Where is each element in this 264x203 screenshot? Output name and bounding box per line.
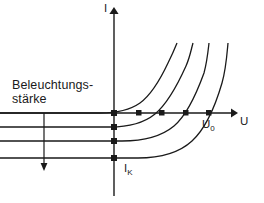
illumination-label-line2: stärke [12, 92, 93, 106]
y-axis-label: I [104, 2, 107, 15]
marker-point [136, 110, 142, 116]
marker-point [183, 110, 189, 116]
marker-point [159, 110, 165, 116]
x-axis-label: U [240, 115, 248, 128]
u-zero-label: U0 [202, 118, 215, 133]
u-zero-label-subscript: 0 [210, 124, 214, 133]
i-k-label: IK [124, 162, 133, 177]
marker-point [111, 155, 117, 161]
i-k-label-subscript: K [127, 168, 132, 177]
direction-arrow-head [41, 163, 48, 171]
photodiode-characteristic-figure: Beleuchtungs- stärke I U U0 IK [0, 0, 264, 203]
x-axis-arrowhead [231, 108, 238, 117]
marker-point [111, 138, 117, 144]
marker-point [111, 124, 117, 130]
marker-point [111, 110, 117, 116]
illumination-label-line1: Beleuchtungs- [12, 78, 93, 92]
marker-point [206, 110, 212, 116]
y-axis-arrowhead [109, 7, 118, 14]
illumination-direction-arrow [41, 113, 48, 171]
illumination-label: Beleuchtungs- stärke [12, 78, 93, 107]
